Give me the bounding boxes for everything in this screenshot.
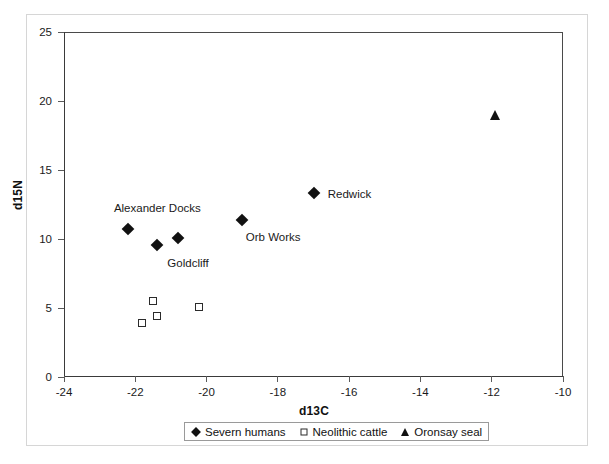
y-tick-label-wrap: 5 [22,302,52,314]
x-tick-mark [491,376,492,382]
point-label-goldcliff: Goldcliff [167,257,208,270]
y-tick-label: 0 [22,371,52,383]
x-tick-mark [420,376,421,382]
x-axis-title: d13C [264,404,364,418]
x-tick-label-wrap: -20 [187,385,227,399]
open-square-marker-icon [153,312,161,320]
open-square-marker-icon [149,297,157,305]
x-tick-mark [206,376,207,382]
y-tick-label-wrap: 10 [22,233,52,245]
x-tick-mark [563,376,564,382]
x-tick-label-wrap: -12 [472,385,512,399]
x-tick-mark [64,376,65,382]
x-tick-label: -10 [543,385,583,399]
y-tick-label: 10 [22,233,52,245]
open-square-marker-icon [138,319,146,327]
y-tick-label: 5 [22,302,52,314]
x-tick-label-wrap: -18 [258,385,298,399]
point-label-redwick: Redwick [328,188,371,201]
legend-entry-neolithic-cattle: Neolithic cattle [299,426,388,438]
x-tick-label-wrap: -16 [329,385,369,399]
y-tick-label: 20 [22,95,52,107]
x-tick-label-wrap: -22 [115,385,155,399]
legend-label: Neolithic cattle [313,426,388,438]
point-label-orb-works: Orb Works [246,231,301,244]
open-triangle-icon [400,427,410,437]
y-tick-mark [58,239,64,240]
point-label-alexander-docks: Alexander Docks [114,202,201,215]
y-tick-label: 15 [22,164,52,176]
x-axis-line [64,376,563,377]
legend-marker-shape [191,427,201,437]
y-tick-mark [58,32,64,33]
x-tick-label-wrap: -10 [543,385,583,399]
x-tick-label-wrap: -14 [400,385,440,399]
open-square-marker-icon [195,303,203,311]
x-tick-label-wrap: -24 [44,385,84,399]
x-tick-label: -16 [329,385,369,399]
y-axis-title: d15N [11,165,25,225]
open-square-icon [299,427,309,437]
y-tick-label-wrap: 15 [22,164,52,176]
chart-legend: Severn humansNeolithic cattleOronsay sea… [184,422,489,441]
legend-marker-shape [401,428,409,436]
x-tick-mark [349,376,350,382]
legend-label: Oronsay seal [414,426,482,438]
legend-label: Severn humans [205,426,286,438]
x-tick-label: -14 [400,385,440,399]
y-tick-label-wrap: 25 [22,26,52,38]
scatter-plot-figure: 2520151050 -24-22-20-18-16-14-12-10 d15N… [0,0,609,464]
x-tick-label: -24 [44,385,84,399]
x-tick-label: -18 [258,385,298,399]
legend-entry-oronsay-seal: Oronsay seal [400,426,482,438]
y-tick-mark [58,170,64,171]
open-triangle-marker-icon [490,110,500,120]
x-tick-label: -12 [472,385,512,399]
y-tick-mark [58,308,64,309]
x-tick-label: -20 [187,385,227,399]
x-tick-mark [135,376,136,382]
legend-entry-severn-humans: Severn humans [191,426,286,438]
filled-diamond-icon [191,427,201,437]
x-tick-label: -22 [115,385,155,399]
y-tick-label-wrap: 20 [22,95,52,107]
y-axis-line [64,32,65,377]
y-tick-label: 25 [22,26,52,38]
x-tick-mark [277,376,278,382]
y-tick-mark [58,101,64,102]
legend-marker-shape [300,428,307,435]
y-tick-label-wrap: 0 [22,371,52,383]
